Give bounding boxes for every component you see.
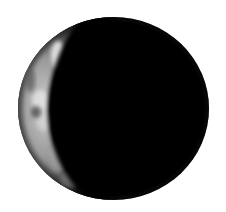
moon-illustration xyxy=(0,0,226,212)
moon-scene xyxy=(0,0,226,212)
